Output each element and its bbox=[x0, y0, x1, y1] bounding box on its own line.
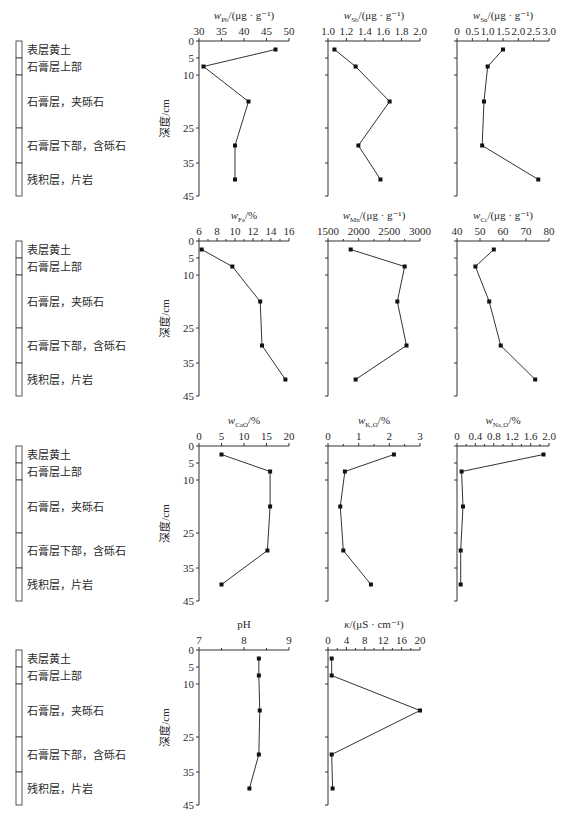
data-point bbox=[260, 344, 264, 348]
x-tick-label: 10 bbox=[239, 430, 251, 442]
title-unit: /(μg · g⁻¹) bbox=[488, 9, 534, 22]
data-point bbox=[268, 505, 272, 509]
x-tick-label: 60 bbox=[498, 225, 510, 237]
x-tick-label: 1.6 bbox=[376, 25, 390, 37]
data-point bbox=[354, 378, 358, 382]
data-point bbox=[501, 48, 505, 52]
panel-title: wPb/(μg · g⁻¹) bbox=[214, 9, 275, 24]
data-line bbox=[222, 455, 271, 585]
data-point bbox=[257, 657, 261, 661]
stratigraphic-column: 表层黄土石膏层上部石膏层，夹砾石石膏层下部，含砾石残积层，片岩 bbox=[16, 41, 126, 196]
stratum-box bbox=[16, 463, 22, 480]
data-point bbox=[268, 470, 272, 474]
data-line bbox=[475, 250, 535, 380]
x-tick-label: 3 bbox=[417, 430, 423, 442]
x-tick-label: 1500 bbox=[317, 225, 340, 237]
x-tick-label: 0 bbox=[454, 430, 460, 442]
data-point bbox=[487, 300, 491, 304]
panel-ph: 7890510253545深度/cmpH bbox=[158, 618, 292, 811]
data-point bbox=[220, 453, 224, 457]
title-unit: /(μg · g⁻¹) bbox=[229, 9, 275, 22]
data-point bbox=[258, 300, 262, 304]
x-tick-label: 7 bbox=[196, 634, 202, 646]
figure-row-3: 表层黄土石膏层上部石膏层，夹砾石石膏层下部，含砾石残积层，片岩 bbox=[16, 650, 126, 805]
x-tick-label: 30 bbox=[194, 25, 206, 37]
stratum-label: 石膏层上部 bbox=[27, 669, 82, 682]
title-unit: /(μg · g⁻¹) bbox=[359, 9, 405, 22]
x-tick-label: 9 bbox=[286, 634, 292, 646]
title-subscript: Na₂O bbox=[493, 421, 509, 429]
depth-tick-label: 25 bbox=[183, 122, 195, 134]
data-point bbox=[258, 709, 262, 713]
x-tick-label: 80 bbox=[544, 225, 556, 237]
figure-row-2: 表层黄土石膏层上部石膏层，夹砾石石膏层下部，含砾石残积层，片岩 bbox=[16, 446, 126, 601]
data-line bbox=[204, 50, 276, 180]
data-point bbox=[330, 674, 334, 678]
panel-cr: 4050607080wCr/(μg · g⁻¹) bbox=[452, 209, 556, 396]
x-tick-label: 14 bbox=[266, 225, 278, 237]
geochemical-depth-profile-figure: 表层黄土石膏层上部石膏层，夹砾石石膏层下部，含砾石残积层，片岩表层黄土石膏层上部… bbox=[0, 0, 567, 819]
stratum-label: 石膏层，夹砾石 bbox=[27, 95, 104, 108]
depth-tick-label: 10 bbox=[183, 474, 195, 486]
data-line bbox=[334, 50, 389, 180]
data-point bbox=[338, 505, 342, 509]
depth-tick-label: 0 bbox=[189, 235, 195, 247]
data-point bbox=[459, 549, 463, 553]
x-tick-label: 12 bbox=[248, 225, 259, 237]
stratum-label: 石膏层下部，含砾石 bbox=[27, 139, 126, 152]
data-point bbox=[480, 144, 484, 148]
data-point bbox=[405, 344, 409, 348]
x-tick-label: 35 bbox=[216, 25, 228, 37]
data-point bbox=[482, 100, 486, 104]
data-point bbox=[330, 753, 334, 757]
title-unit: /% bbox=[248, 414, 260, 426]
data-point bbox=[356, 144, 360, 148]
title-unit: /% bbox=[245, 209, 257, 221]
title-subscript: Fe bbox=[238, 216, 245, 224]
data-point bbox=[200, 248, 204, 252]
x-tick-label: 20 bbox=[415, 634, 427, 646]
depth-tick-label: 35 bbox=[183, 766, 195, 778]
data-point bbox=[230, 265, 234, 269]
panel-title: wFe/% bbox=[231, 209, 258, 224]
stratum-box bbox=[16, 667, 22, 684]
stratum-label: 表层黄土 bbox=[27, 43, 71, 56]
data-line bbox=[332, 659, 420, 789]
title-subscript: CaO bbox=[235, 421, 248, 429]
x-tick-label: 1.5 bbox=[496, 25, 510, 37]
stratum-box bbox=[16, 241, 22, 258]
data-point bbox=[265, 549, 269, 553]
stratum-label: 残积层，片岩 bbox=[27, 173, 93, 186]
stratum-label: 石膏层上部 bbox=[27, 260, 82, 273]
data-line bbox=[249, 659, 259, 789]
depth-axis-label: 深度/cm bbox=[158, 99, 171, 138]
title-unit: /% bbox=[378, 414, 390, 426]
data-point bbox=[378, 178, 382, 182]
data-point bbox=[395, 300, 399, 304]
x-tick-label: 70 bbox=[521, 225, 533, 237]
x-tick-label: 10 bbox=[230, 225, 242, 237]
x-tick-label: 40 bbox=[452, 225, 464, 237]
title-unit: /(μg · g⁻¹) bbox=[487, 209, 533, 222]
x-tick-label: 2500 bbox=[378, 225, 401, 237]
stratum-box bbox=[16, 75, 22, 128]
depth-tick-label: 5 bbox=[189, 661, 195, 673]
x-tick-label: 0 bbox=[325, 430, 331, 442]
depth-tick-label: 0 bbox=[189, 644, 195, 656]
data-point bbox=[220, 583, 224, 587]
depth-tick-label: 25 bbox=[183, 322, 195, 334]
stratum-box bbox=[16, 363, 22, 396]
data-point bbox=[533, 378, 537, 382]
depth-tick-label: 10 bbox=[183, 269, 195, 281]
stratum-box bbox=[16, 328, 22, 363]
panel-title: wSn/(μg · g⁻¹) bbox=[473, 9, 534, 24]
depth-tick-label: 10 bbox=[183, 678, 195, 690]
data-point bbox=[202, 65, 206, 69]
stratum-label: 石膏层上部 bbox=[27, 60, 82, 73]
x-tick-label: 8 bbox=[214, 225, 220, 237]
data-line bbox=[202, 250, 286, 380]
stratum-label: 石膏层下部，含砾石 bbox=[27, 339, 126, 352]
title-unit: /(μg · g⁻¹) bbox=[360, 209, 406, 222]
x-tick-label: 8 bbox=[362, 634, 368, 646]
stratum-label: 石膏层下部，含砾石 bbox=[27, 748, 126, 761]
